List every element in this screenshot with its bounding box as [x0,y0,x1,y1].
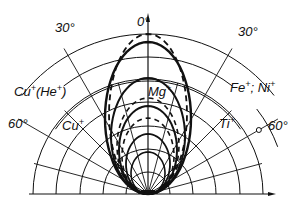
marker-circle [256,128,261,133]
species-label-fe-ni: Fe+; Ni+ [230,79,275,95]
species-label-mg: Mg+ [148,83,171,99]
angle-label-left-60: 60° [8,116,28,131]
x-axis-arrow [268,192,276,196]
axis-label-0: 0° [137,14,149,29]
angle-label-right-60: 60° [268,118,288,133]
species-label-cu-he: Cu+(He+) [14,83,66,99]
polar-diagram: 0°30°30°60°60°Cu+(He+)Mg+Fe+; Ni+Cu+Ti+ [0,0,303,206]
species-label-ti: Ti+ [219,115,235,131]
angle-label-right-30: 30° [238,24,258,39]
species-label-cu: Cu+ [62,117,84,133]
angle-label-left-30: 30° [55,20,75,35]
